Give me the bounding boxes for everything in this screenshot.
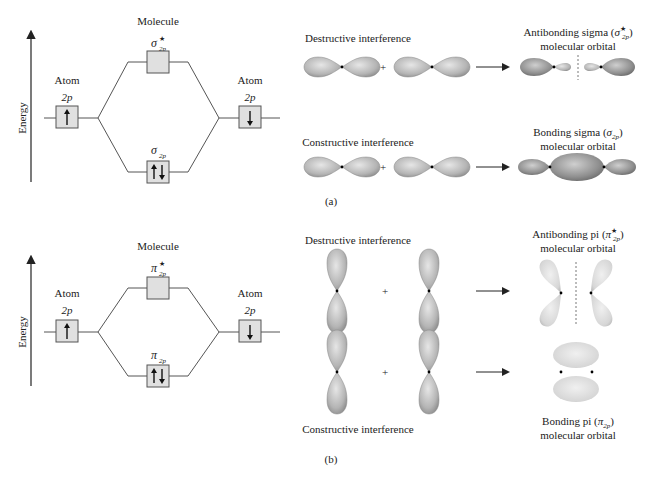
antibonding-pi-symbol: π bbox=[151, 261, 158, 275]
right-atom-label: Atom bbox=[237, 74, 263, 86]
p-orbital-icon bbox=[304, 57, 380, 77]
antibonding-pi-caption: Antibonding pi (π★2p) bbox=[532, 227, 624, 243]
left-atom-orbital-label: 2p bbox=[62, 304, 74, 316]
antibonding-sigma-box bbox=[147, 51, 169, 73]
energy-axis-label: Energy bbox=[16, 102, 28, 134]
bonding-pi-box bbox=[147, 365, 169, 387]
bonding-sigma-box bbox=[147, 161, 169, 183]
right-atom-label: Atom bbox=[237, 287, 263, 299]
p-orbital-icon bbox=[304, 157, 380, 177]
right-atom-orbital-label: 2p bbox=[245, 304, 257, 316]
panel-a-sigma-orbitals: Destructive interference + Antibonding s… bbox=[302, 25, 636, 208]
svg-text:+: + bbox=[382, 366, 388, 378]
bonding-pi-orbital-icon bbox=[553, 342, 599, 402]
left-atom-orbital-label: 2p bbox=[62, 91, 74, 103]
destructive-title-b: Destructive interference bbox=[305, 234, 411, 246]
panel-a-energy-diagram: Energy Molecule Atom 2p σ 2p ★ σ 2p bbox=[16, 15, 280, 183]
bonding-sigma-orbital-icon bbox=[518, 153, 636, 181]
antibonding-sigma-caption: Antibonding sigma (σ★2p) bbox=[523, 25, 633, 41]
molecule-label: Molecule bbox=[137, 240, 179, 252]
bonding-pi-symbol: π bbox=[151, 348, 158, 362]
destructive-title-a: Destructive interference bbox=[305, 32, 411, 44]
svg-text:★: ★ bbox=[159, 260, 165, 268]
svg-text:molecular orbital: molecular orbital bbox=[540, 429, 615, 441]
panel-a-label: (a) bbox=[325, 195, 338, 208]
p-orbital-icon bbox=[327, 249, 347, 333]
svg-text:+: + bbox=[380, 61, 386, 73]
svg-text:2p: 2p bbox=[159, 357, 167, 365]
left-atom-label: Atom bbox=[54, 287, 80, 299]
panel-b-pi-orbitals: Destructive interference + Antibonding p… bbox=[302, 227, 624, 466]
p-orbital-icon bbox=[419, 330, 439, 414]
right-atom-orbital-label: 2p bbox=[245, 91, 257, 103]
p-orbital-icon bbox=[394, 157, 470, 177]
bonding-sigma-symbol: σ bbox=[151, 143, 158, 157]
left-atom-label: Atom bbox=[54, 74, 80, 86]
svg-text:+: + bbox=[380, 161, 386, 173]
molecule-label: Molecule bbox=[137, 15, 179, 27]
antibonding-sigma-orbital-icon bbox=[520, 55, 635, 80]
svg-text:2p: 2p bbox=[159, 152, 167, 160]
constructive-title-b: Constructive interference bbox=[302, 423, 414, 435]
svg-text:molecular orbital: molecular orbital bbox=[540, 40, 615, 52]
energy-axis-label: Energy bbox=[16, 316, 28, 348]
p-orbital-icon bbox=[327, 330, 347, 414]
p-orbital-icon bbox=[419, 249, 439, 333]
svg-text:molecular orbital: molecular orbital bbox=[540, 242, 615, 254]
molecular-orbital-figure: Energy Molecule Atom 2p σ 2p ★ σ 2p bbox=[0, 0, 655, 478]
svg-text:★: ★ bbox=[159, 35, 165, 43]
constructive-title-a: Constructive interference bbox=[302, 136, 414, 148]
antibonding-pi-orbital-icon bbox=[540, 259, 613, 326]
svg-text:molecular orbital: molecular orbital bbox=[540, 140, 615, 152]
antibonding-sigma-symbol: σ bbox=[151, 36, 158, 50]
p-orbital-icon bbox=[394, 57, 470, 77]
antibonding-pi-box bbox=[147, 277, 169, 299]
panel-b-label: (b) bbox=[325, 453, 338, 466]
panel-b-energy-diagram: Energy Molecule Atom 2p π 2p ★ π 2p Atom… bbox=[16, 240, 280, 387]
svg-text:+: + bbox=[382, 285, 388, 297]
bonding-pi-caption: Bonding pi (π2p) bbox=[542, 415, 614, 430]
bonding-sigma-caption: Bonding sigma (σ2p) bbox=[533, 126, 623, 141]
